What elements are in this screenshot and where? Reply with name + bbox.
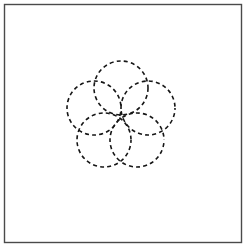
rosette-group <box>67 61 175 167</box>
circle-upper-left <box>67 81 121 135</box>
outer-border-rectangle <box>5 5 242 243</box>
circle-lower-left <box>77 113 131 167</box>
figure-canvas <box>0 0 246 247</box>
rosette-figure <box>0 0 246 247</box>
